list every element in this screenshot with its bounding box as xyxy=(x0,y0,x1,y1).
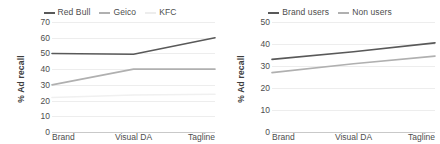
right-chart-y-axis-title: % Ad recall xyxy=(234,36,248,122)
right-chart-x-tick-visual-da: Visual DA xyxy=(335,133,372,142)
legend-swatch-non-users xyxy=(338,12,349,14)
legend-label-brand-users: Brand users xyxy=(282,8,329,17)
legend-item-brand-users: Brand users xyxy=(268,8,329,17)
right-chart-y-tick-label: 30 xyxy=(261,62,270,71)
legend-label-non-users: Non users xyxy=(352,8,392,17)
left-chart-x-tick-brand: Brand xyxy=(52,133,75,142)
legend-item-geico: Geico xyxy=(99,8,136,17)
right-chart-x-tick-brand: Brand xyxy=(272,133,295,142)
right-chart-x-ticks: Brand Visual DA Tagline xyxy=(272,133,435,144)
right-chart-y-ticks: 01020304050 xyxy=(250,22,270,132)
legend-swatch-geico xyxy=(99,12,110,14)
right-chart-y-tick-label: 20 xyxy=(261,84,270,93)
left-chart-y-tick-label: 10 xyxy=(41,112,50,121)
right-chart-y-axis-title-text: % Ad recall xyxy=(236,55,246,103)
left-chart-y-tick-label: 0 xyxy=(45,128,50,137)
right-chart-plot-wrap: 01020304050 xyxy=(250,22,435,132)
legend-item-red-bull: Red Bull xyxy=(44,8,91,17)
left-chart-plot-wrap: 010203040506070 xyxy=(30,22,215,132)
left-chart-y-axis-title: % Ad recall xyxy=(14,36,28,122)
left-chart-y-tick-label: 40 xyxy=(41,65,50,74)
left-chart-y-tick-label: 20 xyxy=(41,96,50,105)
legend-item-non-users: Non users xyxy=(338,8,392,17)
left-chart-y-ticks: 010203040506070 xyxy=(30,22,50,132)
left-chart-x-ticks: Brand Visual DA Tagline xyxy=(52,133,215,144)
left-chart-panel: Red Bull Geico KFC % Ad recall 010203040… xyxy=(0,0,220,144)
left-chart-y-tick-label: 50 xyxy=(41,49,50,58)
legend-swatch-brand-users xyxy=(268,12,279,14)
left-chart-y-tick-label: 30 xyxy=(41,81,50,90)
left-chart-x-tick-tagline: Tagline xyxy=(188,133,215,142)
left-chart-series-line xyxy=(52,94,215,97)
left-chart-series-line xyxy=(52,69,215,85)
left-chart-y-tick-label: 60 xyxy=(41,33,50,42)
right-chart-legend: Brand users Non users xyxy=(220,5,440,20)
left-chart-x-tick-visual-da: Visual DA xyxy=(115,133,152,142)
right-chart-panel: Brand users Non users % Ad recall 010203… xyxy=(220,0,440,144)
right-chart-y-tick-label: 40 xyxy=(261,40,270,49)
right-chart-y-tick-label: 50 xyxy=(261,18,270,27)
right-chart-series-line xyxy=(272,43,435,60)
right-chart-series-line xyxy=(272,56,435,73)
two-panel-line-chart-figure: Red Bull Geico KFC % Ad recall 010203040… xyxy=(0,0,440,144)
left-chart-y-tick-label: 70 xyxy=(41,18,50,27)
left-chart-series-line xyxy=(52,38,215,55)
legend-swatch-kfc xyxy=(145,12,156,14)
left-chart-plot-area xyxy=(52,22,215,132)
legend-label-red-bull: Red Bull xyxy=(58,8,91,17)
left-chart-legend: Red Bull Geico KFC xyxy=(0,5,220,20)
legend-item-kfc: KFC xyxy=(145,8,176,17)
right-chart-y-tick-label: 0 xyxy=(265,128,270,137)
left-chart-y-axis-title-text: % Ad recall xyxy=(16,55,26,103)
legend-label-kfc: KFC xyxy=(159,8,176,17)
right-chart-plot-area xyxy=(272,22,435,132)
left-chart-series-svg xyxy=(52,22,215,132)
right-chart-y-tick-label: 10 xyxy=(261,106,270,115)
right-chart-series-svg xyxy=(272,22,435,132)
legend-swatch-red-bull xyxy=(44,12,55,14)
right-chart-x-tick-tagline: Tagline xyxy=(408,133,435,142)
legend-label-geico: Geico xyxy=(113,8,136,17)
